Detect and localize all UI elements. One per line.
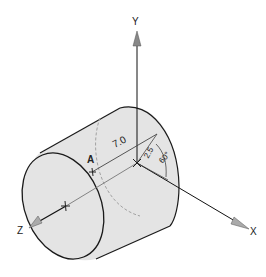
point-a-label: A — [87, 155, 94, 165]
x-axis-label: X — [250, 227, 257, 237]
y-axis-label: Y — [132, 17, 139, 27]
z-axis-label: Z — [17, 226, 23, 236]
y-axis-arrow-icon — [133, 31, 141, 46]
cylinder-diagram — [0, 0, 266, 277]
x-axis-arrow-icon — [231, 217, 249, 229]
diagram-canvas: Y X Z A 7.0 2.5 60° — [0, 0, 266, 277]
